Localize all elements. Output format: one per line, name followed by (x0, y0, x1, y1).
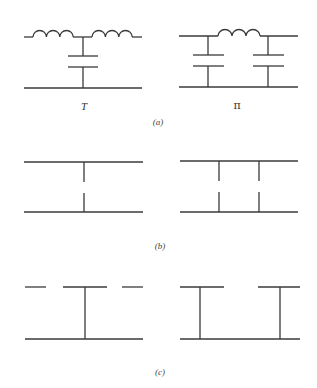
inductor-icon (218, 30, 260, 37)
pi-label: π (233, 99, 240, 112)
t-network: T (24, 31, 142, 113)
b-double-gap (180, 161, 298, 212)
caption-c: (c) (155, 367, 165, 377)
capacitor-icon (253, 55, 284, 66)
capacitor-icon (68, 56, 98, 67)
c-single-stub (25, 287, 143, 339)
t-label: T (81, 100, 88, 112)
caption-a: (a) (153, 117, 164, 127)
pi-network: π (179, 30, 298, 113)
circuit-figure: T π (a) (b) (0, 0, 317, 388)
c-double-stub (180, 287, 300, 339)
capacitor-icon (193, 55, 224, 66)
inductor-icon (33, 31, 73, 38)
inductor-icon (92, 31, 132, 38)
caption-b: (b) (155, 241, 166, 251)
b-single-gap (24, 162, 143, 212)
